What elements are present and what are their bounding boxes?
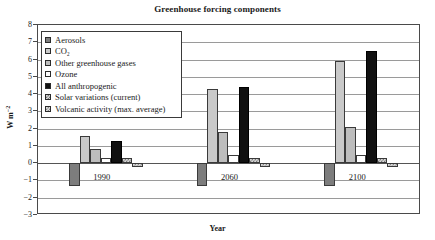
chart-figure: Greenhouse forcing components 876543210−… [0, 0, 435, 240]
legend-swatch-aerosols-icon [45, 37, 51, 43]
legend-label-ozone: Ozone [55, 70, 77, 79]
bar-solar-1990 [122, 158, 133, 163]
y-tick-label-5: 5 [28, 71, 32, 80]
legend-item-ozone[interactable]: Ozone [45, 69, 178, 81]
bar-volcanic-2100 [387, 163, 398, 166]
bar-anthro-1990 [111, 141, 122, 163]
legend-item-other[interactable]: Other greenhouse gases [45, 57, 178, 69]
x-axis-label: Year [0, 224, 435, 233]
y-axis-label: W m−2 [5, 97, 16, 137]
bar-volcanic-1990 [132, 163, 143, 166]
bar-anthro-2100 [366, 51, 377, 163]
x-group-label-1990: 1990 [93, 172, 110, 182]
bar-anthro-2060 [239, 87, 250, 163]
x-group-label-2060: 2060 [221, 172, 238, 182]
legend-swatch-anthro-icon [45, 83, 51, 89]
bar-other-2060 [218, 132, 229, 163]
legend-item-solar[interactable]: Solar variations (current) [45, 92, 178, 104]
legend-swatch-other-icon [45, 60, 51, 66]
bar-ozone-2060 [228, 155, 239, 163]
y-tick-label-7: 7 [28, 37, 32, 46]
y-tick-label-6: 6 [28, 54, 32, 63]
y-tick-label--2: −2 [23, 192, 32, 201]
gridline-0 [38, 163, 419, 164]
chart-title: Greenhouse forcing components [0, 4, 435, 14]
y-tick-label-0: 0 [28, 158, 32, 167]
gridline-2 [38, 129, 419, 130]
y-tick-label--3: −3 [23, 210, 32, 219]
legend-item-anthro[interactable]: All anthropogenic [45, 80, 178, 92]
legend-label-solar: Solar variations (current) [55, 93, 140, 102]
legend-item-volcanic[interactable]: Volcanic activity (max. average) [45, 103, 178, 115]
bar-aerosols-1990 [69, 163, 80, 185]
bar-co2-1990 [80, 136, 91, 164]
legend-swatch-co2-icon [45, 48, 51, 54]
y-tick-mark--3 [33, 214, 37, 215]
bar-solar-2100 [377, 158, 388, 163]
legend-swatch-solar-icon [45, 94, 51, 100]
legend-label-aerosols: Aerosols [55, 36, 85, 45]
bar-aerosols-2100 [324, 163, 335, 185]
legend-swatch-volcanic-icon [45, 106, 51, 112]
legend-label-co2: CO₂ [55, 47, 70, 56]
y-tick-label-2: 2 [28, 123, 32, 132]
bar-solar-2060 [249, 158, 260, 163]
gridline-1 [38, 146, 419, 147]
x-group-label-2100: 2100 [349, 172, 366, 182]
gridline--2 [38, 198, 419, 199]
y-tick-label-4: 4 [28, 89, 32, 98]
legend-label-volcanic: Volcanic activity (max. average) [55, 105, 165, 114]
bar-other-1990 [90, 149, 101, 163]
bar-co2-2100 [335, 61, 346, 163]
legend-item-co2[interactable]: CO₂ [45, 46, 178, 58]
bar-other-2100 [345, 127, 356, 163]
legend-label-anthro: All anthropogenic [55, 82, 117, 91]
bar-ozone-2100 [356, 155, 367, 163]
y-tick-label--1: −1 [23, 175, 32, 184]
legend-label-other: Other greenhouse gases [55, 59, 136, 68]
legend-swatch-ozone-icon [45, 71, 51, 77]
bar-co2-2060 [207, 89, 218, 163]
bar-volcanic-2060 [260, 163, 271, 166]
chart-legend: AerosolsCO₂Other greenhouse gasesOzoneAl… [41, 31, 182, 118]
legend-item-aerosols[interactable]: Aerosols [45, 34, 178, 46]
y-tick-label-3: 3 [28, 106, 32, 115]
bar-ozone-1990 [101, 158, 112, 163]
bar-aerosols-2060 [197, 163, 208, 185]
y-tick-label-1: 1 [28, 140, 32, 149]
y-tick-label-8: 8 [28, 20, 32, 29]
